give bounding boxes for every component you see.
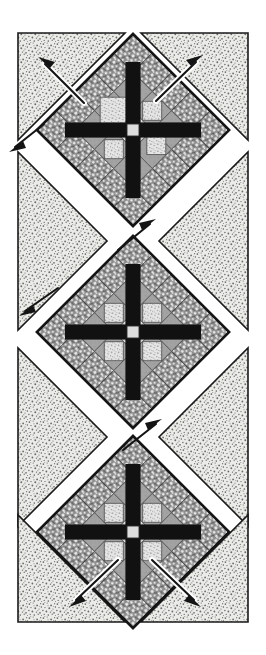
block-center-square bbox=[127, 326, 139, 338]
quilt-assembly-diagram: Quilt block assembly diagram bbox=[0, 0, 266, 655]
block-center-square bbox=[127, 526, 139, 538]
block-center-square bbox=[127, 124, 139, 136]
quilt-diagram-canvas: Quilt block assembly diagram bbox=[0, 0, 266, 655]
